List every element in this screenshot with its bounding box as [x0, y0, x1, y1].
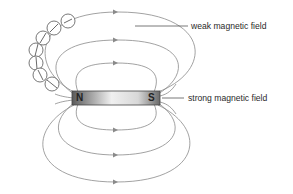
field-line-top-middle — [56, 40, 179, 94]
bar-magnet — [72, 91, 160, 105]
compass-icon — [47, 21, 61, 35]
compass-icon — [33, 68, 47, 82]
compass-needles — [29, 14, 75, 91]
strong-field-label: strong magnetic field — [188, 94, 267, 103]
field-line-bottom-inner — [76, 104, 156, 130]
compass-icon — [29, 43, 43, 57]
magnetic-field-diagram: N S weak magnetic field strong magnetic … — [0, 0, 293, 194]
south-pole-label: S — [148, 93, 155, 103]
compass-icon — [36, 31, 50, 45]
north-pole-label: N — [76, 93, 83, 103]
field-line-top-inner — [76, 63, 157, 92]
weak-field-label: weak magnetic field — [191, 22, 266, 31]
field-line-bottom-outer — [43, 105, 190, 182]
compass-icon — [45, 77, 59, 91]
compass-icon — [61, 14, 75, 28]
